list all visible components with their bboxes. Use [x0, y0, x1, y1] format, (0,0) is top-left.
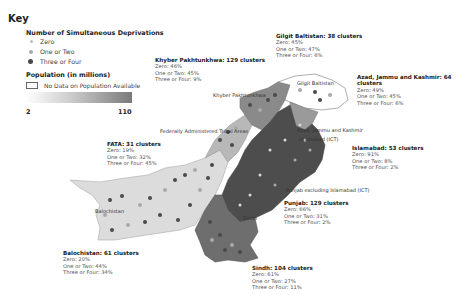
- map-label-balochistan: Balochistan: [95, 208, 124, 214]
- map-label-sindh: Sindh: [243, 215, 257, 221]
- stat-three-four: Three or Four: 11%: [252, 284, 313, 290]
- map-label-ajk: Azad, Jammu and Kashmir: [297, 127, 363, 133]
- map-label-punjab: Punjab excluding Islamabad (ICT): [286, 187, 370, 193]
- stat-islamabad: Islamabad: 53 clusters Zero: 91% One or …: [352, 145, 424, 171]
- stat-three-four: Three or Four: 6%: [357, 100, 451, 106]
- stat-three-four: Three or Four: 9%: [155, 76, 265, 82]
- map-label-islamabad: Islamabad (ICT): [299, 136, 338, 142]
- stat-fata: FATA: 31 clusters Zero: 19% One or Two: …: [107, 141, 161, 167]
- stat-three-four: Three or Four: 2%: [284, 219, 349, 225]
- stat-balochistan: Balochistan: 61 clusters Zero: 20% One o…: [63, 250, 139, 276]
- map-label-fata: Federally Administered Tribal Areas: [160, 128, 248, 134]
- stat-khyber: Khyber Pakhtunkhwa: 129 clusters Zero: 4…: [155, 57, 265, 83]
- stat-gilgit: Gilgit Baltistan: 38 clusters Zero: 45% …: [276, 33, 362, 59]
- stat-three-four: Three or Four: 6%: [276, 52, 362, 58]
- stat-three-four: Three or Four: 45%: [107, 160, 161, 166]
- stat-ajk: Azad, Jammu and Kashmir: 64 clusters Zer…: [357, 74, 451, 106]
- stat-sindh: Sindh: 104 clusters Zero: 61% One or Two…: [252, 265, 313, 291]
- stat-three-four: Three or Four: 34%: [63, 269, 139, 275]
- stat-three-four: Three or Four: 2%: [352, 164, 424, 170]
- map-label-khyber: Khyber Pakhtunkhwa: [213, 92, 266, 98]
- stat-punjab: Punjab: 129 clusters Zero: 66% One or Tw…: [284, 200, 349, 226]
- map-label-gilgit: Gilgit Baltistan: [297, 80, 334, 86]
